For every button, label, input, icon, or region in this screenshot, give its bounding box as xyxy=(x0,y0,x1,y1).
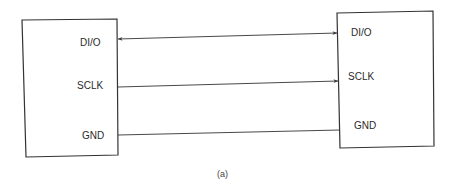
left-pin-sclk-label: SCLK xyxy=(77,80,103,91)
right-pin-gnd-label: GND xyxy=(354,120,376,131)
right-pin-dio-label: DI/O xyxy=(351,27,372,38)
figure-caption: (a) xyxy=(217,169,228,179)
left-pin-dio-label: DI/O xyxy=(80,37,101,48)
sclk-connection-line xyxy=(118,81,338,87)
diagram-canvas xyxy=(0,0,453,196)
left-pin-gnd-label: GND xyxy=(82,130,104,141)
gnd-connection-line xyxy=(118,130,340,135)
dio-connection-line xyxy=(118,33,337,39)
right-pin-sclk-label: SCLK xyxy=(348,71,374,82)
